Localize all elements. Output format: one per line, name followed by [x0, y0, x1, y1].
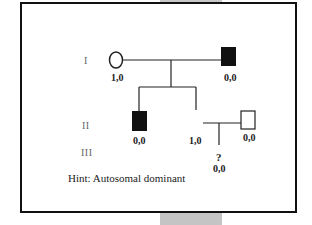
genotype-I-2: 0,0: [224, 72, 237, 83]
generation-label-III: III: [81, 147, 93, 158]
male-affected-II-1: [132, 111, 147, 131]
male-affected-I-2: [221, 47, 236, 66]
pedigree-chart: [0, 0, 312, 225]
male-unaffected-II-3: [241, 111, 255, 129]
generation-label-I: I: [84, 55, 88, 66]
unknown-phenotype-marker: ?: [216, 151, 222, 163]
genotype-II-3: 0,0: [243, 132, 256, 143]
genotype-I-1: 1,0: [111, 72, 124, 83]
genotype-III-1: 0,0: [213, 163, 226, 174]
genotype-II-2: 1,0: [189, 135, 202, 146]
genotype-II-1: 0,0: [133, 135, 146, 146]
female-unaffected-I-1: [110, 52, 123, 68]
hint-text: Hint: Autosomal dominant: [68, 172, 185, 184]
generation-label-II: II: [82, 120, 90, 131]
